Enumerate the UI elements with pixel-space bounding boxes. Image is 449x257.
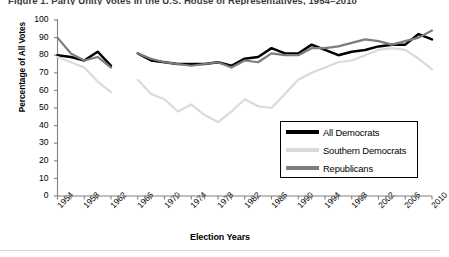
data-series-group <box>58 31 433 123</box>
legend-swatch-all-democrats <box>286 130 319 134</box>
legend-item-republicans: Republicans <box>286 160 373 176</box>
legend-label-republicans: Republicans <box>323 163 373 174</box>
legend-swatch-republicans <box>286 166 319 169</box>
chart-legend: All Democrats Southern Democrats Republi… <box>280 121 418 178</box>
legend-item-southern-democrats: Southern Democrats <box>286 142 406 158</box>
legend-item-all-democrats: All Democrats <box>286 124 379 140</box>
legend-label-southern-democrats: Southern Democrats <box>323 145 406 156</box>
footer-divider <box>0 250 440 251</box>
legend-label-all-democrats: All Democrats <box>323 127 379 138</box>
legend-swatch-southern-democrats <box>286 148 319 151</box>
